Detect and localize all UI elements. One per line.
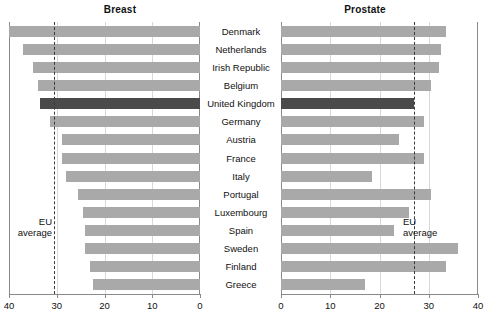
bar xyxy=(50,116,200,127)
panel-title-breast: Breast xyxy=(60,4,180,15)
category-label: Denmark xyxy=(202,26,280,37)
category-label: Germany xyxy=(202,116,280,127)
bar xyxy=(281,80,431,91)
bar xyxy=(281,116,424,127)
bar xyxy=(38,80,200,91)
bar xyxy=(23,44,200,55)
bar xyxy=(281,225,394,236)
eu-average-line-prostate xyxy=(414,22,415,294)
category-label: Portugal xyxy=(202,189,280,200)
axis-tick-label: 40 xyxy=(4,300,15,311)
bar xyxy=(78,189,200,200)
chart-root: Breast Prostate 403020100010203040 Denma… xyxy=(0,0,486,320)
category-label: Italy xyxy=(202,171,280,182)
axis-tick-label: 0 xyxy=(278,300,283,311)
axis-tick xyxy=(429,294,430,298)
category-label: United Kingdom xyxy=(202,98,280,109)
bar xyxy=(281,279,365,290)
category-label: Sweden xyxy=(202,243,280,254)
axis-tick-label: 20 xyxy=(99,300,110,311)
eu-average-label-line1: EU xyxy=(403,216,447,227)
bar xyxy=(281,26,446,37)
category-label: Belgium xyxy=(202,80,280,91)
bar xyxy=(281,207,409,218)
category-label: Irish Republic xyxy=(202,62,280,73)
bar xyxy=(66,171,200,182)
bar xyxy=(33,62,200,73)
axis-tick-label: 30 xyxy=(423,300,434,311)
category-label: Luxembourg xyxy=(202,207,280,218)
axis-tick xyxy=(330,294,331,298)
bar xyxy=(281,153,424,164)
axis-tick-label: 20 xyxy=(374,300,385,311)
bar xyxy=(281,189,431,200)
category-label: Finland xyxy=(202,261,280,272)
category-label: Spain xyxy=(202,225,280,236)
axis-tick-label: 0 xyxy=(197,300,202,311)
category-label: Austria xyxy=(202,134,280,145)
bar xyxy=(281,134,399,145)
panel-title-prostate: Prostate xyxy=(300,4,430,15)
axis-tick xyxy=(200,294,201,298)
axis-tick xyxy=(57,294,58,298)
bar xyxy=(62,153,200,164)
bar xyxy=(83,207,200,218)
bar xyxy=(281,98,414,109)
axis-tick-label: 10 xyxy=(147,300,158,311)
eu-average-label-line2: average xyxy=(10,227,52,238)
category-label: Netherlands xyxy=(202,44,280,55)
bar xyxy=(281,171,372,182)
bar xyxy=(85,243,200,254)
bar xyxy=(40,98,200,109)
bar xyxy=(281,44,441,55)
eu-average-label-line2: average xyxy=(403,227,447,238)
axis-tick xyxy=(380,294,381,298)
bar xyxy=(93,279,200,290)
eu-average-label-breast: EU average xyxy=(10,216,52,238)
axis-tick xyxy=(105,294,106,298)
bar xyxy=(281,243,458,254)
bar xyxy=(281,261,446,272)
axis-tick-label: 30 xyxy=(51,300,62,311)
eu-average-label-prostate: EU average xyxy=(403,216,447,238)
bar xyxy=(90,261,200,272)
category-label: France xyxy=(202,153,280,164)
axis-tick xyxy=(9,294,10,298)
axis-tick-label: 10 xyxy=(325,300,336,311)
bar xyxy=(85,225,200,236)
axis-tick xyxy=(152,294,153,298)
axis-tick-label: 40 xyxy=(473,300,484,311)
axis-tick xyxy=(281,294,282,298)
bar xyxy=(62,134,200,145)
eu-average-line-breast xyxy=(54,22,55,294)
category-label: Greece xyxy=(202,279,280,290)
bar xyxy=(9,26,200,37)
axis-tick xyxy=(478,294,479,298)
eu-average-label-line1: EU xyxy=(10,216,52,227)
